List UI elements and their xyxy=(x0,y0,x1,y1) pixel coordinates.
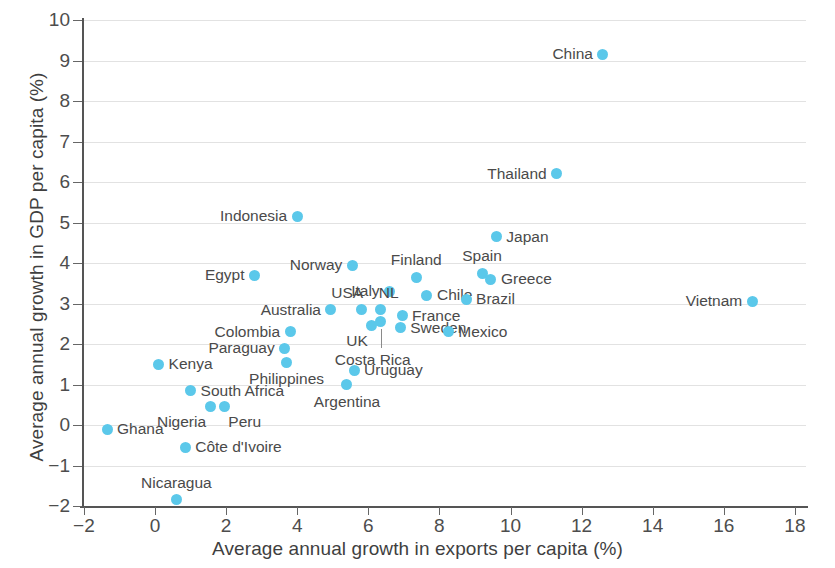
y-tick xyxy=(73,385,82,386)
x-tick-label: 2 xyxy=(206,516,246,535)
point-label: Vietnam xyxy=(686,294,743,310)
point-label: Nigeria xyxy=(157,414,206,430)
x-tick xyxy=(84,507,85,515)
x-tick xyxy=(368,507,369,515)
x-tick-label: 6 xyxy=(348,516,388,535)
data-point xyxy=(205,401,216,412)
point-label: Kenya xyxy=(169,357,213,373)
y-tick xyxy=(73,506,82,507)
x-tick-label: 0 xyxy=(135,516,175,535)
point-label: Spain xyxy=(462,248,502,264)
data-point xyxy=(356,304,367,315)
point-label: Japan xyxy=(506,229,548,245)
data-point xyxy=(397,310,408,321)
x-tick xyxy=(155,507,156,515)
point-label: NL xyxy=(379,285,399,301)
point-label: USA xyxy=(331,285,363,301)
gridline xyxy=(84,182,806,183)
data-point xyxy=(281,357,292,368)
label-leader-line xyxy=(381,329,382,348)
x-tick-label: 14 xyxy=(633,516,673,535)
gridline xyxy=(84,263,806,264)
data-point xyxy=(551,168,562,179)
data-point xyxy=(325,304,336,315)
gridline xyxy=(84,466,806,467)
x-tick-label: 16 xyxy=(704,516,744,535)
y-tick xyxy=(73,101,82,102)
point-label: Australia xyxy=(261,302,321,318)
data-point xyxy=(597,49,608,60)
data-point xyxy=(185,385,196,396)
x-tick xyxy=(297,507,298,515)
gridline xyxy=(84,20,806,21)
point-label: Finland xyxy=(391,252,442,268)
y-tick xyxy=(73,223,82,224)
gridline xyxy=(84,344,806,345)
data-point xyxy=(180,442,191,453)
y-tick xyxy=(73,142,82,143)
gridline xyxy=(84,61,806,62)
x-tick-label: −2 xyxy=(64,516,104,535)
point-label: Brazil xyxy=(476,292,515,308)
data-point xyxy=(395,322,406,333)
x-axis-title: Average annual growth in exports per cap… xyxy=(0,538,835,560)
x-axis-line xyxy=(80,506,808,508)
x-tick xyxy=(439,507,440,515)
point-label: Greece xyxy=(501,271,552,287)
point-label: Ghana xyxy=(117,421,164,437)
x-tick xyxy=(724,507,725,515)
x-tick xyxy=(582,507,583,515)
y-tick xyxy=(73,304,82,305)
scatter-plot: 109876543210−1−2 −202468101214161820 Chi… xyxy=(0,0,835,568)
y-tick xyxy=(73,263,82,264)
data-point xyxy=(219,401,230,412)
y-tick xyxy=(73,425,82,426)
point-label: Mexico xyxy=(458,324,507,340)
point-label: UK xyxy=(346,333,368,349)
data-point xyxy=(349,365,360,376)
x-tick-label: 12 xyxy=(562,516,602,535)
x-tick xyxy=(795,507,796,515)
point-label: Thailand xyxy=(487,166,546,182)
point-label: China xyxy=(552,47,593,63)
x-tick-label: 10 xyxy=(491,516,531,535)
x-tick xyxy=(653,507,654,515)
point-label: Colombia xyxy=(215,324,280,340)
data-point xyxy=(411,272,422,283)
x-tick-label: 18 xyxy=(775,516,815,535)
data-point xyxy=(285,326,296,337)
x-tick xyxy=(511,507,512,515)
point-label: Côte d'Ivoire xyxy=(195,440,282,456)
x-tick-label: 8 xyxy=(419,516,459,535)
data-point xyxy=(375,316,386,327)
point-label: South Africa xyxy=(201,383,285,399)
data-point xyxy=(375,304,386,315)
point-label: Egypt xyxy=(205,267,245,283)
x-tick-label: 4 xyxy=(277,516,317,535)
point-label: Nicaragua xyxy=(141,475,212,491)
data-point xyxy=(747,296,758,307)
y-tick xyxy=(73,182,82,183)
point-label: Norway xyxy=(290,257,343,273)
data-point xyxy=(292,211,303,222)
data-point xyxy=(347,260,358,271)
data-point xyxy=(461,294,472,305)
point-label: Peru xyxy=(228,414,261,430)
y-tick xyxy=(73,61,82,62)
y-tick xyxy=(73,20,82,21)
data-point xyxy=(249,270,260,281)
data-point xyxy=(421,290,432,301)
data-point xyxy=(491,231,502,242)
data-point xyxy=(153,359,164,370)
x-tick xyxy=(226,507,227,515)
gridline xyxy=(84,223,806,224)
gridline xyxy=(84,101,806,102)
data-point xyxy=(279,343,290,354)
data-point xyxy=(102,424,113,435)
point-label: Paraguay xyxy=(208,340,274,356)
point-label: Argentina xyxy=(314,394,380,410)
data-point xyxy=(171,494,182,505)
point-label: Indonesia xyxy=(220,209,287,225)
y-tick xyxy=(73,344,82,345)
gridline xyxy=(84,142,806,143)
